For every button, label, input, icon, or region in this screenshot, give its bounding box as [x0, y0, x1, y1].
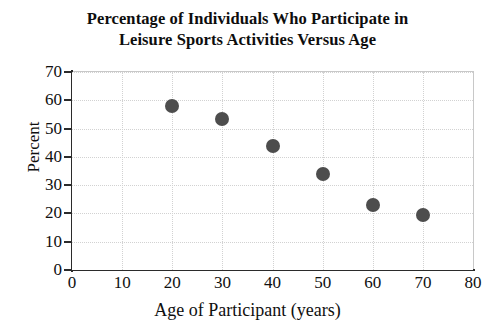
gridline-vertical — [423, 72, 424, 270]
data-point — [416, 208, 430, 222]
gridline-vertical — [222, 72, 223, 270]
data-point — [366, 198, 380, 212]
data-point — [165, 99, 179, 113]
page-title: Percentage of Individuals Who Participat… — [0, 8, 495, 50]
y-tick-label: 60 — [22, 91, 62, 108]
data-point — [266, 139, 280, 153]
y-tick-label: 50 — [22, 120, 62, 137]
x-tick-label: 70 — [401, 274, 445, 292]
gridline-vertical — [373, 72, 374, 270]
title-line-2: Leisure Sports Activities Versus Age — [0, 29, 495, 50]
gridline-vertical — [122, 72, 123, 270]
y-tick-label: 30 — [22, 176, 62, 193]
x-tick-label: 20 — [150, 274, 194, 292]
chart-figure: Percentage of Individuals Who Participat… — [0, 0, 495, 335]
plot-frame-right — [473, 72, 474, 270]
x-axis-title: Age of Participant (years) — [0, 300, 495, 321]
title-line-1: Percentage of Individuals Who Participat… — [0, 8, 495, 29]
x-tick-label: 40 — [251, 274, 295, 292]
x-tick-label: 60 — [351, 274, 395, 292]
data-point — [215, 112, 229, 126]
x-tick-label: 50 — [301, 274, 345, 292]
plot-area — [72, 72, 473, 270]
x-tick-label: 80 — [451, 274, 495, 292]
y-tick-label: 40 — [22, 148, 62, 165]
x-tick-label: 10 — [100, 274, 144, 292]
y-tick-label: 20 — [22, 204, 62, 221]
gridline-vertical — [273, 72, 274, 270]
y-tick-label: 70 — [22, 63, 62, 80]
data-point — [316, 167, 330, 181]
x-tick-label: 0 — [50, 274, 94, 292]
x-tick-label: 30 — [200, 274, 244, 292]
y-tick-label: 10 — [22, 233, 62, 250]
